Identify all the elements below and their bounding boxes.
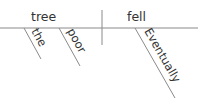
- predicate-word: fell: [127, 9, 146, 24]
- subject-word: tree: [31, 9, 56, 24]
- sentence-diagram: tree fell the poor Eventually: [0, 0, 200, 102]
- modifier-word-the: the: [28, 26, 49, 49]
- modifier-word-poor: poor: [64, 26, 89, 56]
